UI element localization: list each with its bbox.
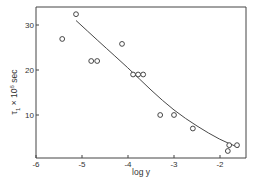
y-tick-label: 30	[25, 21, 34, 30]
x-axis-ticks: -6-5-4-3-2	[32, 155, 224, 169]
data-point	[227, 143, 232, 148]
x-tick-label: -6	[32, 160, 40, 169]
data-point	[158, 113, 163, 118]
x-tick-label: -4	[124, 160, 132, 169]
data-point	[120, 42, 125, 47]
y-tick-label: 10	[25, 111, 34, 120]
data-point	[95, 59, 100, 64]
data-point	[225, 149, 230, 154]
y-axis-ticks: 102030	[25, 21, 39, 120]
data-point	[141, 72, 146, 77]
x-axis-title: log y	[132, 167, 151, 177]
plot-frame	[36, 7, 246, 158]
fit-curve	[76, 21, 238, 148]
data-point	[131, 72, 136, 77]
data-point	[89, 59, 94, 64]
y-tick-label: 20	[25, 66, 34, 75]
x-tick-label: -2	[216, 160, 224, 169]
x-tick-label: -5	[78, 160, 86, 169]
data-point	[74, 12, 79, 17]
chart: -6-5-4-3-2 102030 log y τ1 × 106 sec	[0, 0, 253, 183]
data-points	[60, 12, 240, 154]
data-point	[136, 72, 141, 77]
y-axis-title: τ1 × 106 sec	[9, 69, 21, 115]
data-point	[190, 126, 195, 131]
x-tick-label: -3	[170, 160, 178, 169]
data-point	[172, 113, 177, 118]
data-point	[235, 143, 240, 148]
data-point	[60, 37, 65, 42]
